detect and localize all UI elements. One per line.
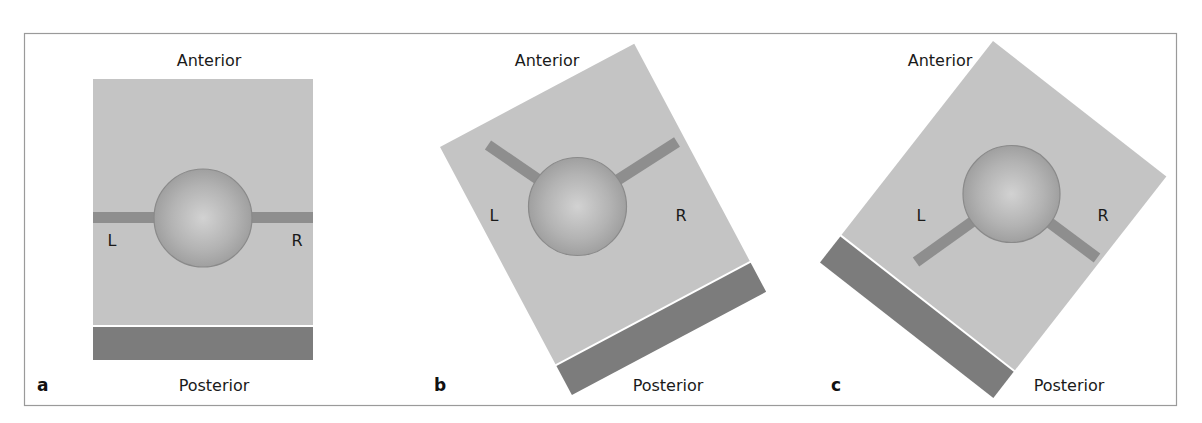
right-label-c: R (1097, 206, 1108, 225)
anterior-label-c: Anterior (908, 51, 973, 70)
figure-canvas: Anterior L R Posterior a Anterior L R Po… (0, 0, 1202, 423)
panel-a: Anterior L R Posterior a (37, 51, 313, 395)
left-label-b: L (490, 206, 499, 225)
left-label-a: L (108, 231, 117, 250)
anterior-label-a: Anterior (177, 51, 242, 70)
sphere-b (529, 158, 627, 256)
left-label-c: L (917, 206, 926, 225)
sphere-a (154, 169, 252, 267)
anterior-label-b: Anterior (515, 51, 580, 70)
posterior-label-a: Posterior (179, 376, 250, 395)
panel-letter-a: a (37, 375, 48, 395)
panel-letter-b: b (434, 375, 446, 395)
sphere-c (963, 146, 1060, 243)
panel-b: Anterior L R Posterior b (434, 44, 766, 395)
right-label-b: R (675, 206, 686, 225)
right-label-a: R (291, 231, 302, 250)
panel-letter-c: c (831, 375, 841, 395)
posterior-label-c: Posterior (1034, 376, 1105, 395)
panel-c: Anterior L R Posterior c (820, 41, 1166, 398)
posterior-label-b: Posterior (633, 376, 704, 395)
